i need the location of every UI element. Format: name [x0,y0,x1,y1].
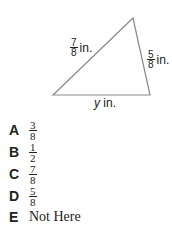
option-b[interactable]: B 12 [9,141,39,163]
side-label-bottom: y in. [94,96,116,110]
side-label-right: 58 in. [147,50,169,69]
option-c[interactable]: C 78 [9,163,39,185]
option-d[interactable]: D 58 [9,185,39,207]
side-label-left: 78 in. [70,38,92,57]
option-a[interactable]: A 38 [9,119,39,141]
option-e[interactable]: E Not Here [9,206,81,228]
